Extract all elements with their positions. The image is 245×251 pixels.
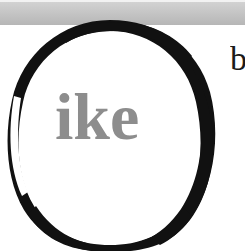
- ink-heavy-right: [150, 40, 213, 245]
- ink-thin-left: [10, 96, 28, 196]
- ink-heavy-top: [62, 22, 192, 63]
- document-edge-letter-fragment: b: [230, 42, 245, 76]
- document-word-fragment: ike: [55, 84, 139, 150]
- document-scan-canvas: ike b: [0, 0, 245, 251]
- scan-gray-band: [0, 2, 245, 25]
- ink-heavy-bottom: [28, 206, 192, 251]
